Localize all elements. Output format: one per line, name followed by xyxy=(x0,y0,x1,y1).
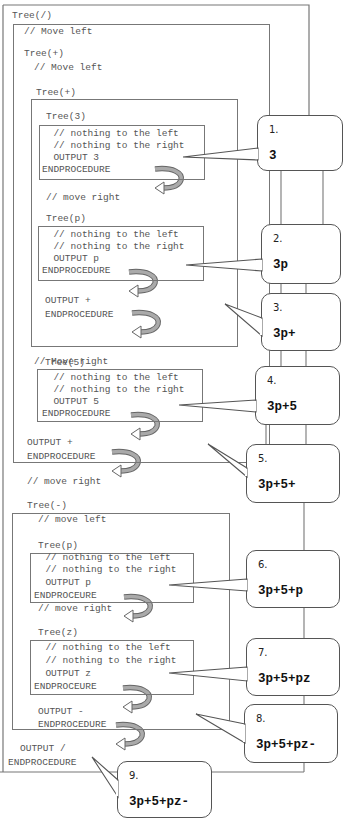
endprocedure: ENDPROCEDURE xyxy=(38,719,106,731)
tree-z-line: // nothing to the right xyxy=(34,655,177,667)
tree-p-line: OUTPUT p xyxy=(42,253,99,265)
tree-3-line: // nothing to the right xyxy=(42,140,185,152)
tree-p-line: // nothing to the left xyxy=(42,229,179,241)
callout-step-9: 9. 3p+5+pz- xyxy=(117,761,212,818)
step-result: 3p+5+p xyxy=(258,584,303,598)
tree-plus-outer-label: Tree(+) xyxy=(24,48,64,60)
tree-5-line: ENDPROCEDURE xyxy=(42,408,110,420)
tree-p-line: // nothing to the right xyxy=(34,564,177,576)
tree-p-line: ENDPROCEDURE xyxy=(42,265,110,277)
tree-3-line: ENDPROCEDURE xyxy=(42,164,110,176)
tree-z-line: ENDPROCEURE xyxy=(34,681,97,693)
tree-z-line: // nothing to the left xyxy=(34,642,171,654)
tree-5-line: // nothing to the left xyxy=(42,372,179,384)
callout-step-7: 7. 3p+5+pz xyxy=(246,638,340,696)
step-result: 3p+5+pz- xyxy=(129,795,189,809)
tree-p-line: OUTPUT p xyxy=(34,577,91,589)
callout-step-5: 5. 3p+5+ xyxy=(246,444,340,503)
step-result: 3p+5+pz- xyxy=(256,738,316,752)
callout-step-1: 1. 3 xyxy=(257,115,343,171)
comment-move-right: // move right xyxy=(46,192,120,204)
tree-3-line: // nothing to the left xyxy=(42,128,179,140)
tree-z-label: Tree(z) xyxy=(38,627,78,639)
tree-5-line: // nothing to the right xyxy=(42,384,185,396)
output-plus: OUTPUT + xyxy=(45,295,91,307)
step-number: 7. xyxy=(258,647,268,658)
callout-step-4: 4. 3p+5 xyxy=(255,366,340,425)
comment-move-right: // move right xyxy=(27,476,101,488)
tree-div-label: Tree(/) xyxy=(12,10,52,22)
tree-z-line: OUTPUT z xyxy=(34,668,91,680)
tree-3-line: OUTPUT 3 xyxy=(42,152,99,164)
output-div: OUTPUT / xyxy=(20,743,66,755)
tree-p-line: // nothing to the right xyxy=(42,241,185,253)
comment-move-left: // Move left xyxy=(34,62,102,74)
step-number: 1. xyxy=(269,124,279,135)
step-number: 3. xyxy=(273,302,283,313)
comment-move-left: // Move left xyxy=(24,26,92,38)
tree-p-line: // nothing to the left xyxy=(34,552,171,564)
tree-p-label: Tree(p) xyxy=(46,213,86,225)
step-number: 5. xyxy=(258,453,268,464)
step-result: 3p xyxy=(273,258,288,272)
tree-p-line: ENDPROCEURE xyxy=(34,590,97,602)
endprocedure: ENDPROCEDURE xyxy=(27,451,95,463)
step-number: 4. xyxy=(267,375,277,386)
step-number: 6. xyxy=(258,559,268,570)
output-minus: OUTPUT - xyxy=(38,706,84,718)
step-number: 8. xyxy=(256,713,266,724)
tree-minus-label: Tree(-) xyxy=(27,500,67,512)
tree-3-label: Tree(3) xyxy=(46,111,86,123)
output-plus: OUTPUT + xyxy=(27,437,73,449)
step-number: 9. xyxy=(129,770,139,781)
endprocedure: ENDPROCEDURE xyxy=(8,757,76,769)
comment-move-right: // move right xyxy=(38,603,112,615)
tree-5-line: OUTPUT 5 xyxy=(42,396,99,408)
step-result: 3p+5+ xyxy=(258,478,296,492)
step-result: 3 xyxy=(269,149,277,163)
step-result: 3p+ xyxy=(273,327,296,341)
step-result: 3p+5+pz xyxy=(258,672,311,686)
step-result: 3p+5 xyxy=(267,400,297,414)
tree-5-label: Tree(5) xyxy=(45,357,85,369)
callout-step-8: 8. 3p+5+pz- xyxy=(244,704,338,763)
comment-move-left: // move left xyxy=(38,514,106,526)
tree-plus-inner-label: Tree(+) xyxy=(36,87,76,99)
tree-p-label: Tree(p) xyxy=(38,540,78,552)
callout-step-3: 3. 3p+ xyxy=(261,293,341,351)
step-number: 2. xyxy=(273,233,283,244)
callout-step-2: 2. 3p xyxy=(261,224,341,284)
endprocedure: ENDPROCEDURE xyxy=(45,309,113,321)
callout-step-6: 6. 3p+5+p xyxy=(246,550,340,608)
